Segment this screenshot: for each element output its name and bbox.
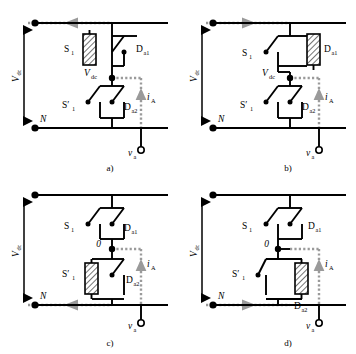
va-label-sub-a: a — [134, 153, 137, 160]
vdc-label-sub-a: dc — [15, 69, 22, 75]
da1-label-sub-d: a1 — [316, 226, 322, 233]
s1-label-b: S 1 — [242, 48, 252, 60]
node-label-text-d: 0 — [264, 239, 269, 249]
s1-blade-c — [88, 208, 100, 224]
da2-terminal-c — [110, 273, 115, 278]
s1-label-text-d: S — [242, 221, 247, 231]
vdc-label-a: V dc — [11, 69, 22, 82]
s1p-blade-a — [88, 86, 100, 102]
da1-label-a: D a1 — [136, 44, 149, 56]
da1-label-text-b: D — [324, 44, 331, 54]
va-label-sub-c: a — [134, 326, 137, 333]
va-label-c: v a — [128, 321, 137, 333]
da2-label-sub-a: a2 — [132, 107, 138, 114]
s1p-label-text-c: S′ — [62, 269, 69, 279]
va-label-text-d: v — [306, 321, 311, 331]
ia-arrow-c — [136, 259, 147, 271]
s1-blade-d — [266, 208, 278, 224]
s1-label-c: S 1 — [64, 221, 74, 233]
node-label-b: V dc — [262, 68, 275, 80]
s1p-terminal-a — [86, 100, 91, 105]
da1-blade-c — [112, 208, 124, 224]
neutral-label-c: N — [39, 291, 47, 301]
da1-terminal-c — [110, 222, 115, 227]
da1-blade-a — [112, 36, 124, 52]
s1-label-d: S 1 — [242, 221, 252, 233]
panel-a: V dc S 1 D a1 V — [0, 0, 178, 177]
s1-blade-b — [266, 36, 278, 52]
da1-blade-d — [290, 208, 302, 224]
ia-label-sub-c: A — [151, 264, 156, 271]
da1-label-d: D a1 — [308, 221, 321, 233]
da1-label-sub-a: a1 — [144, 49, 150, 56]
ia-label-sub-d: A — [329, 264, 334, 271]
output-terminal-b — [316, 147, 322, 153]
s1-terminal-d — [264, 222, 269, 227]
va-label-sub-d: a — [312, 326, 315, 333]
ia-label-sub-b: A — [329, 97, 334, 104]
bottom-rail-node-c — [31, 301, 38, 308]
ia-label-text-c: i — [147, 259, 150, 269]
da2-label-sub-b: a2 — [310, 107, 316, 114]
da2-label-b: D a2 — [302, 102, 315, 114]
da1-device-b — [307, 34, 320, 65]
da2-label-d: D a2 — [294, 301, 307, 313]
s1-label-a: S 1 — [64, 44, 74, 56]
s1-device-a — [83, 34, 96, 65]
da2-device-d — [295, 263, 308, 294]
s1-label-sub-b: 1 — [249, 53, 252, 60]
s1-label-sub-c: 1 — [71, 226, 74, 233]
s1p-label-sub-c: 1 — [72, 274, 75, 281]
da1-label-c: D a1 — [124, 223, 137, 235]
da2-label-sub-d: a2 — [302, 306, 308, 313]
output-terminal-a — [138, 147, 144, 153]
da2-label-sub-c: a2 — [134, 280, 140, 287]
ia-label-d: i A — [325, 259, 334, 271]
s1p-terminal-d — [256, 273, 261, 278]
caption-d: d) — [284, 338, 292, 348]
bottom-rail-node-b — [209, 124, 216, 131]
va-label-text-c: v — [128, 321, 133, 331]
da2-label-text-b: D — [302, 102, 309, 112]
output-terminal-c — [138, 320, 144, 326]
neutral-label-d: N — [217, 291, 225, 301]
node-label-a: V dc — [84, 68, 97, 80]
vdc-label-sub-c: dc — [15, 244, 22, 250]
ia-arrow-a — [136, 88, 147, 100]
ia-label-sub-a: A — [151, 97, 156, 104]
da1-label-sub-c: a1 — [132, 228, 138, 235]
four-panel-circuit-figure: V dc S 1 D a1 V — [0, 0, 356, 354]
da2-label-c: D a2 — [126, 275, 139, 287]
neutral-label-a: N — [39, 114, 47, 124]
da1-label-sub-b: a1 — [332, 49, 338, 56]
s1-terminal-c — [86, 222, 91, 227]
da2-blade-a — [112, 86, 124, 102]
da1-label-b: D a1 — [324, 44, 337, 56]
s1p-label-sub-a: 1 — [72, 105, 75, 112]
bottom-rail-node-d — [209, 301, 216, 308]
da2-blade-b — [290, 86, 302, 102]
da2-terminal-a — [110, 100, 115, 105]
s1-label-text-b: S — [242, 48, 247, 58]
s1-label-sub-a: 1 — [71, 49, 74, 56]
s1p-label-b: S′ 1 — [240, 100, 253, 112]
s1p-label-a: S′ 1 — [62, 100, 75, 112]
da2-label-text-c: D — [126, 275, 133, 285]
s1-label-text-a: S — [64, 44, 69, 54]
s1p-blade-b — [266, 86, 278, 102]
vdc-label-c: V dc — [11, 244, 22, 257]
s1p-device-c — [85, 263, 98, 294]
top-rail-node-b — [209, 19, 216, 26]
s1p-blade-d — [258, 259, 266, 275]
ia-arrow-d — [314, 259, 325, 271]
s1p-terminal-b — [264, 100, 269, 105]
ia-arrow-b — [314, 88, 325, 100]
da2-label-text-d: D — [294, 301, 301, 311]
s1p-label-text-d: S′ — [232, 269, 239, 279]
bottom-rail-node-a — [31, 124, 38, 131]
s1p-label-sub-d: 1 — [242, 274, 245, 281]
da2-label-text-a: D — [124, 102, 131, 112]
s1p-label-sub-b: 1 — [250, 105, 253, 112]
da2-blade-c — [112, 259, 124, 275]
da1-label-text-a: D — [136, 44, 143, 54]
